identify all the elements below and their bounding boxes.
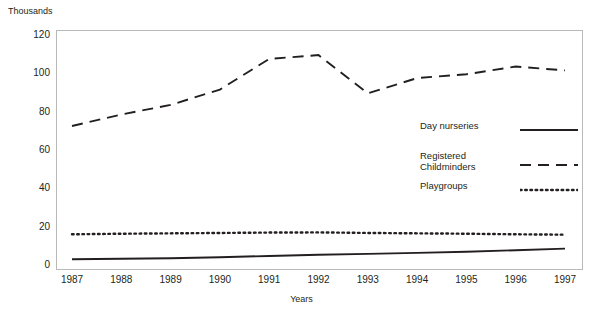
- y-tick-label: 20: [24, 220, 50, 231]
- x-tick-label: 1991: [258, 274, 280, 285]
- legend-swatch-dotted: [520, 181, 578, 191]
- series-line: [72, 232, 565, 234]
- legend-item-label: RegisteredChildminders: [420, 150, 515, 172]
- y-tick-label: 120: [24, 29, 50, 40]
- legend-item-label: Playgroups: [420, 180, 515, 191]
- x-tick-label: 1995: [455, 274, 477, 285]
- legend-swatch-dashed: [520, 156, 578, 166]
- legend-item: Day nurseries: [420, 120, 580, 142]
- x-tick-label: 1987: [61, 274, 83, 285]
- x-tick-label: 1996: [505, 274, 527, 285]
- chart-legend: Day nurseriesRegisteredChildmindersPlayg…: [420, 120, 580, 200]
- x-axis-title: Years: [0, 294, 603, 304]
- y-axis-tick-labels: 020406080100120: [22, 30, 50, 270]
- y-axis-unit-label: Thousands: [8, 6, 53, 16]
- legend-item: Playgroups: [420, 180, 580, 202]
- x-tick-label: 1997: [554, 274, 576, 285]
- legend-item-label: Day nurseries: [420, 120, 515, 131]
- x-tick-label: 1993: [357, 274, 379, 285]
- series-line: [72, 55, 565, 126]
- series-line: [72, 249, 565, 260]
- legend-swatch-solid: [520, 121, 578, 131]
- x-tick-label: 1994: [406, 274, 428, 285]
- y-tick-label: 0: [24, 259, 50, 270]
- chart-container: Thousands 020406080100120 19871988198919…: [0, 0, 603, 315]
- y-tick-label: 100: [24, 67, 50, 78]
- x-tick-label: 1992: [307, 274, 329, 285]
- x-tick-label: 1990: [209, 274, 231, 285]
- y-tick-label: 80: [24, 105, 50, 116]
- x-tick-label: 1989: [159, 274, 181, 285]
- x-axis-tick-labels: 1987198819891990199119921993199419951996…: [56, 274, 583, 290]
- cropped-title-text: [150, 0, 350, 6]
- x-tick-label: 1988: [110, 274, 132, 285]
- y-tick-label: 60: [24, 144, 50, 155]
- y-tick-label: 40: [24, 182, 50, 193]
- legend-item: RegisteredChildminders: [420, 150, 580, 172]
